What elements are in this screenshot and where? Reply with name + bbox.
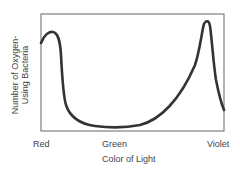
x-tick-red: Red — [33, 139, 50, 149]
plot-frame — [41, 14, 224, 131]
x-tick-green: Green — [102, 139, 127, 149]
y-axis-label: Number of Oxygen- Using Bacteria — [10, 36, 30, 115]
y-axis-label-line2: Using Bacteria — [20, 36, 30, 115]
chart-root: Number of Oxygen- Using Bacteria Red Gre… — [0, 0, 240, 171]
x-axis-label: Color of Light — [102, 154, 156, 164]
data-curve — [41, 21, 224, 127]
x-tick-violet: Violet — [207, 139, 229, 149]
y-axis-label-line1: Number of Oxygen- — [10, 36, 20, 115]
